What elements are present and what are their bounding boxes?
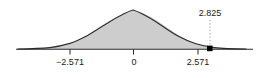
distribution-figure: −2.571 0 2.571 2.825 xyxy=(0,0,271,78)
annotation-square-marker xyxy=(207,46,213,52)
annotation-value-label: 2.825 xyxy=(180,8,240,18)
x-tick-label-center: 0 xyxy=(104,57,164,67)
x-tick-label-left: −2.571 xyxy=(40,57,100,67)
x-tick-label-right: 2.571 xyxy=(168,57,228,67)
